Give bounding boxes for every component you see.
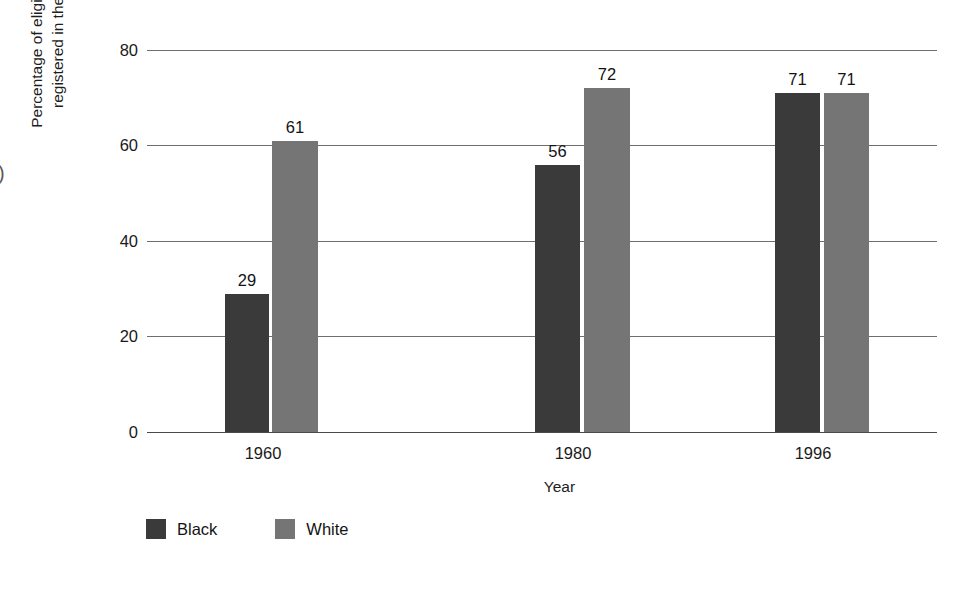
bar-value-1996-white: 71 xyxy=(824,70,869,89)
legend-label-black: Black xyxy=(177,520,217,539)
bar-1996-white xyxy=(824,93,869,432)
y-tick-label-80: 80 xyxy=(98,41,138,60)
x-tick-label-1960: 1960 xyxy=(208,444,318,463)
y-tick-label-20: 20 xyxy=(98,327,138,346)
bar-1960-black xyxy=(225,294,269,433)
bar-1980-black xyxy=(535,165,580,432)
y-axis-title-line-2: registered in the South xyxy=(48,0,69,108)
plot-area: 29 61 56 72 71 71 xyxy=(147,50,937,432)
bar-value-1960-black: 29 xyxy=(225,271,269,290)
bar-1980-white xyxy=(584,88,630,432)
bar-1960-white xyxy=(272,141,318,432)
x-axis-title-text: Year xyxy=(544,478,575,495)
gridline-80 xyxy=(147,50,937,51)
y-tick-label-0: 0 xyxy=(98,423,138,442)
bar-chart-figure: ) Percentage of eligible voters register… xyxy=(0,0,969,592)
chart-legend: Black White xyxy=(146,519,349,539)
bar-value-1996-black: 71 xyxy=(775,70,820,89)
legend-swatch-white-icon xyxy=(275,519,295,539)
bar-value-1960-white: 61 xyxy=(272,118,318,137)
bar-value-1980-white: 72 xyxy=(584,65,630,84)
legend-item-black: Black xyxy=(146,519,217,539)
bar-value-1980-black: 56 xyxy=(535,142,580,161)
gridline-baseline-0 xyxy=(147,432,937,433)
y-axis-title-line-1: Percentage of eligible voters xyxy=(27,0,48,128)
x-tick-label-1996: 1996 xyxy=(758,444,868,463)
y-tick-label-60: 60 xyxy=(98,136,138,155)
y-tick-label-40: 40 xyxy=(98,232,138,251)
x-tick-label-1980: 1980 xyxy=(518,444,628,463)
bar-1996-black xyxy=(775,93,820,432)
legend-label-white: White xyxy=(306,520,348,539)
scan-artifact-glyph: ) xyxy=(0,162,5,185)
legend-item-white: White xyxy=(275,519,348,539)
legend-swatch-black-icon xyxy=(146,519,166,539)
y-axis-title: Percentage of eligible voters registered… xyxy=(18,0,78,180)
x-axis-title: Year xyxy=(0,478,969,496)
